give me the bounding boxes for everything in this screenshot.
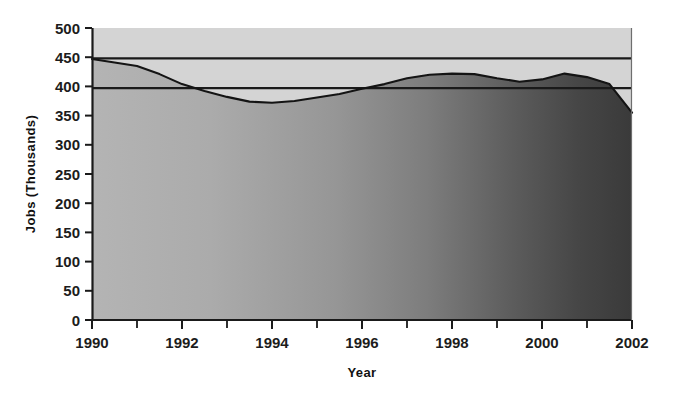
y-tick-label: 250 [55, 166, 80, 183]
y-axis-ticks [85, 28, 92, 320]
y-tick-label: 350 [55, 107, 80, 124]
y-tick-label: 500 [55, 20, 80, 37]
area-fill [92, 59, 632, 320]
y-tick-label: 200 [55, 195, 80, 212]
y-tick-label: 100 [55, 253, 80, 270]
y-tick-label: 400 [55, 78, 80, 95]
x-tick-label: 1992 [165, 334, 198, 351]
y-axis-title: Jobs (Thousands) [23, 115, 38, 233]
x-tick-label: 1996 [345, 334, 378, 351]
x-axis-ticks [92, 320, 632, 329]
y-tick-label: 150 [55, 224, 80, 241]
x-tick-label: 2002 [615, 334, 648, 351]
y-tick-label: 300 [55, 136, 80, 153]
y-tick-label: 0 [72, 312, 80, 329]
x-axis-tick-labels: 1990 1992 1994 1996 1998 2000 2002 [75, 334, 648, 351]
x-tick-label: 1994 [255, 334, 289, 351]
jobs-by-year-area-chart: 0 50 100 150 200 250 300 350 400 450 500 [0, 0, 677, 408]
x-axis-title: Year [347, 365, 376, 380]
y-tick-label: 50 [63, 282, 80, 299]
y-axis-tick-labels: 0 50 100 150 200 250 300 350 400 450 500 [55, 20, 80, 329]
x-tick-label: 1990 [75, 334, 108, 351]
chart-figure: 0 50 100 150 200 250 300 350 400 450 500 [0, 0, 677, 408]
x-tick-label: 1998 [435, 334, 468, 351]
x-tick-label: 2000 [525, 334, 558, 351]
y-tick-label: 450 [55, 49, 80, 66]
